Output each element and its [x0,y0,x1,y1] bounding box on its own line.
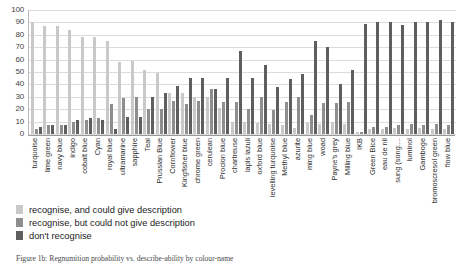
x-axis-tick-label: azurite [294,138,302,160]
bar [122,98,125,134]
bar [185,104,188,134]
bar [451,22,454,134]
x-axis-tick-label: eau de nil [381,138,389,170]
bar [222,102,225,134]
x-axis-tick-label: turquoise [31,138,39,168]
x-axis-tick: Milling blue [342,137,355,199]
bar-group [93,10,106,134]
bar-groups [30,10,455,134]
bar [268,124,271,134]
bar [435,124,438,134]
bar [356,132,359,134]
legend-swatch-icon [16,231,23,240]
y-axis-tick: 30 [16,93,25,101]
x-axis-tick-label: indigo [69,138,77,158]
x-axis-tick-label: Milling blue [344,138,352,175]
x-axis-tick-label: Procion blue [219,138,227,179]
bar [76,120,79,134]
bar [72,122,75,134]
bar-group [280,10,293,134]
bar-group [218,10,231,134]
bar [401,25,404,134]
bar-group [330,10,343,134]
x-axis-tick: bromoscresol green [429,137,442,199]
y-axis-tick: 60 [16,56,25,64]
chart-legend: recognise, and could give description re… [16,203,316,242]
bar [351,70,354,134]
x-axis-tick-label: chartreuse [231,138,239,173]
bar [326,47,329,134]
bar-group [305,10,318,134]
x-axis-tick: Payne's grey [329,137,342,199]
y-axis-tick: 20 [16,105,25,113]
y-axis-tick: 10 [16,118,25,126]
bar [343,124,346,134]
bar [101,120,104,134]
bar-group [293,10,306,134]
x-axis-tick: Kingfisher blue [179,137,192,199]
bar-group [43,10,56,134]
x-axis-tick-label: Teal [144,138,152,152]
bar [176,86,179,134]
x-axis-tick: Cyan [92,137,105,199]
x-axis-tick-label: cobalt blue [81,138,89,174]
bar [139,117,142,134]
bar-group [168,10,181,134]
x-axis-tick-label: ultramarine [119,138,127,175]
bar [231,122,234,134]
bar [297,97,300,134]
y-axis-tick: 80 [16,31,25,39]
bar [276,87,279,134]
bar-group [180,10,193,134]
bar [143,70,146,134]
legend-item: recognise, but could not give descriptio… [16,216,316,229]
bar-group [380,10,393,134]
bar [172,101,175,134]
bar-group [205,10,218,134]
x-axis-tick: chartreuse [229,137,242,199]
x-axis-tick-label: sapphire [131,138,139,166]
bar [64,125,67,134]
bar-group [430,10,443,134]
x-axis-tick: chrome green [192,137,205,199]
bar [164,93,167,134]
bar [318,124,321,134]
x-axis-tick-label: cerulean [206,138,214,166]
legend-label: recognise, but could not give descriptio… [29,218,195,228]
bar [193,97,196,134]
bar [260,97,263,134]
bar [126,117,129,134]
bar-group [143,10,156,134]
bar [418,128,421,134]
x-axis-tick: lime green [42,137,55,199]
x-axis-tick-label: navy blue [56,138,64,170]
bar [51,125,54,134]
bar-group [255,10,268,134]
bar [56,26,59,134]
bar-group [68,10,81,134]
x-axis-tick-label: luminol [406,138,414,161]
bar [118,62,121,134]
x-axis-tick-label: levelling turquoise [269,138,277,197]
bar [360,132,363,134]
bar [364,24,367,134]
y-axis-tick: 40 [16,80,25,88]
x-axis-tick-label: oxford blue [256,138,264,175]
bar-group [193,10,206,134]
x-axis-tick: navy blue [54,137,67,199]
x-axis-tick: lapis lazuli [242,137,255,199]
bar-group [318,10,331,134]
bar [106,41,109,134]
bar [210,89,213,134]
legend-item: don't recognise [16,229,316,242]
bar [381,129,384,134]
bar [247,109,250,134]
bar [31,22,34,134]
x-axis-tick: azurite [292,137,305,199]
bar-group [355,10,368,134]
bar [347,102,350,134]
x-axis-tick-label: Gamboge [419,138,427,170]
bar [397,125,400,134]
bar [431,129,434,134]
bar [293,128,296,134]
